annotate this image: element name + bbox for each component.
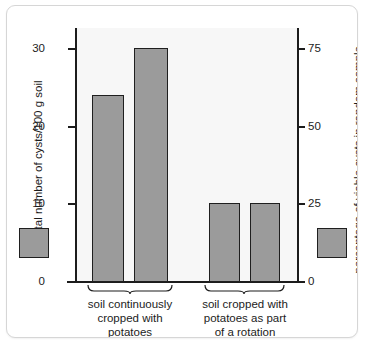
group2-label-line2: potatoes as part (187, 311, 303, 325)
left-tick-label-30: 30 (32, 43, 45, 55)
figure-card: 0 10 20 30 0 25 50 75 total number of cy… (6, 5, 358, 338)
group1-label-line1: soil continuously (69, 297, 191, 311)
bar-group2-viable-percentage (250, 203, 280, 282)
group1-label-line3: potatoes (69, 325, 191, 338)
group2-label: soil cropped with potatoes as part of a … (187, 297, 303, 338)
left-tick-0 (68, 281, 75, 283)
left-tick-10 (68, 203, 75, 205)
right-tick-label-25: 25 (308, 198, 321, 210)
right-tick-0 (298, 281, 305, 283)
left-tick-label-0: 0 (39, 276, 45, 288)
right-tick-label-50: 50 (308, 121, 321, 133)
bar-group2-total-cysts (209, 203, 240, 282)
right-tick-75 (298, 48, 305, 50)
left-tick-20 (68, 126, 75, 128)
group2-brace (204, 285, 285, 294)
right-tick-25 (298, 203, 305, 205)
right-tick-label-75: 75 (308, 43, 321, 55)
group2-label-line3: of a rotation (187, 325, 303, 338)
bar-group1-viable-percentage (134, 48, 168, 282)
group1-label: soil continuously cropped with potatoes (69, 297, 191, 338)
bar-group1-total-cysts (92, 95, 124, 282)
right-tick-label-0: 0 (308, 276, 314, 288)
right-axis-title: percentage of viable cysts in random sam… (353, 40, 358, 280)
left-tick-30 (68, 48, 75, 50)
legend-swatch-right-axis (317, 228, 347, 258)
group1-label-line2: cropped with (69, 311, 191, 325)
left-axis-line (75, 28, 77, 282)
group1-brace (87, 285, 173, 294)
right-tick-50 (298, 126, 305, 128)
group2-label-line1: soil cropped with (187, 297, 303, 311)
legend-swatch-left-axis (19, 228, 49, 258)
right-axis-line (297, 28, 299, 282)
